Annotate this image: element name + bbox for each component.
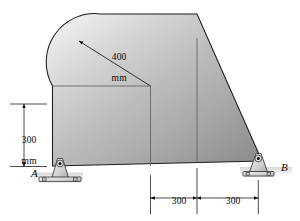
span-right-dimension-label: 300 mm: [206, 185, 250, 220]
height-dimension-unit: mm: [22, 156, 37, 166]
radius-dimension-label: 400 mm: [92, 41, 136, 94]
plate-body: [46, 14, 262, 166]
span-right-dimension-value: 300: [226, 196, 241, 206]
statics-figure: 400 mm 300 mm 300 mm 300 mm A B: [0, 0, 300, 220]
radius-dimension-unit: mm: [112, 73, 127, 83]
point-label-a: A: [31, 167, 38, 179]
point-label-b: B: [281, 161, 288, 173]
span-left-dimension-value: 300: [172, 196, 187, 206]
span-left-dimension-label: 300 mm: [152, 185, 196, 220]
height-dimension-label: 300 mm: [2, 124, 46, 177]
span-left-dimension-unit: mm: [172, 217, 187, 221]
height-dimension-value: 300: [22, 135, 37, 145]
span-right-dimension-unit: mm: [226, 217, 241, 221]
figure-canvas: [0, 0, 300, 220]
radius-dimension-value: 400: [112, 52, 127, 62]
